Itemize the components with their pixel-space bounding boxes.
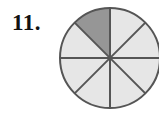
pie-chart-svg [58, 6, 159, 112]
figure-page: 11. [0, 0, 159, 128]
problem-number-label: 11. [12, 11, 41, 35]
pie-figure [58, 6, 159, 112]
